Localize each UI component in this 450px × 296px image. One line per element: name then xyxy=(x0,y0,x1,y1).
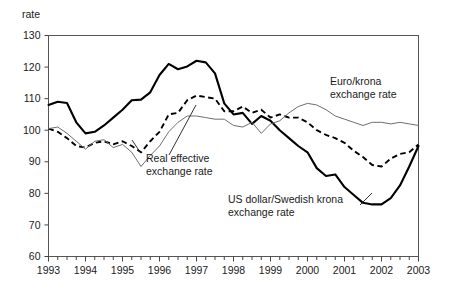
y-tick-label: 130 xyxy=(23,29,41,41)
us-dollar-annotation-line-2: exchange rate xyxy=(228,206,295,218)
x-tick-label: 1997 xyxy=(185,264,209,276)
y-tick-label: 110 xyxy=(24,92,41,104)
euro-krona-annotation-line-1: Euro/krona xyxy=(330,75,382,87)
x-tick-label: 1994 xyxy=(74,264,98,276)
y-tick-label: 90 xyxy=(29,155,41,167)
x-tick-label: 2000 xyxy=(296,264,320,276)
x-tick-label: 2002 xyxy=(370,264,394,276)
x-tick-label: 1996 xyxy=(148,264,172,276)
real-effective-annotation-line-1: Real effective xyxy=(146,152,210,164)
x-tick-label: 2003 xyxy=(407,264,431,276)
x-tick-label: 1998 xyxy=(222,264,246,276)
x-tick-label: 1993 xyxy=(37,264,61,276)
exchange-rate-chart: rate 60708090100110120130 19931994199519… xyxy=(0,0,450,296)
real-effective-annotation: Real effectiveexchange rate xyxy=(146,152,213,177)
euro-krona-annotation-line-2: exchange rate xyxy=(330,88,397,100)
y-tick-label: 60 xyxy=(29,250,41,262)
y-tick-label: 100 xyxy=(23,124,41,136)
chart-background xyxy=(0,0,450,296)
chart-svg: rate 60708090100110120130 19931994199519… xyxy=(0,0,450,296)
us-dollar-annotation-line-1: US dollar/Swedish krona xyxy=(228,193,343,205)
y-tick-label: 120 xyxy=(23,61,41,73)
x-tick-label: 2001 xyxy=(333,264,357,276)
x-tick-label: 1999 xyxy=(259,264,283,276)
real-effective-annotation-line-2: exchange rate xyxy=(146,165,213,177)
x-tick-label: 1995 xyxy=(111,264,135,276)
y-tick-label: 70 xyxy=(29,219,41,231)
y-axis-label: rate xyxy=(22,8,40,20)
y-tick-label: 80 xyxy=(29,187,41,199)
